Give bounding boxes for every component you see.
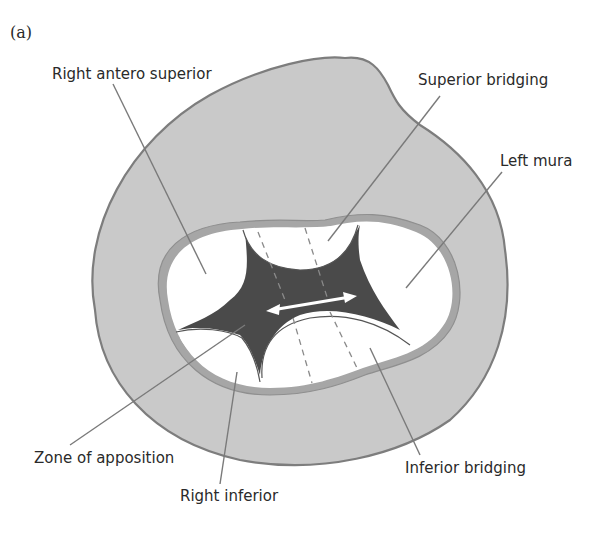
label-right-antero-superior: Right antero superior [52, 65, 212, 83]
label-right-inferior: Right inferior [180, 487, 279, 505]
label-zone-of-apposition: Zone of apposition [34, 449, 174, 467]
atrioventricular-valve-diagram: (a) Right antero superior Superior bridg… [0, 0, 596, 537]
panel-label: (a) [10, 23, 32, 42]
label-left-mura: Left mura [500, 152, 572, 170]
label-superior-bridging: Superior bridging [418, 71, 548, 89]
label-inferior-bridging: Inferior bridging [405, 459, 526, 477]
